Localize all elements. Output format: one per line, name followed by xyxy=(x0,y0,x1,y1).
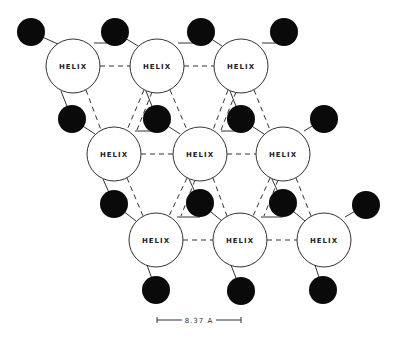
dashed-bond xyxy=(253,178,270,216)
helix-label: HELIX xyxy=(59,63,87,71)
helix-label: HELIX xyxy=(100,151,128,159)
ion-sphere xyxy=(269,189,297,217)
ion-sphere xyxy=(309,276,337,304)
helix-node: HELIX xyxy=(214,39,268,93)
helix-node: HELIX xyxy=(213,213,267,267)
helix-node: HELIX xyxy=(173,127,227,181)
ion-sphere xyxy=(186,189,214,217)
ion-sphere xyxy=(143,105,171,133)
helix-label: HELIX xyxy=(142,237,170,245)
ion-sphere xyxy=(100,190,128,218)
helix-label: HELIX xyxy=(227,63,255,71)
helix-cylinders: HELIXHELIXHELIXHELIXHELIXHELIXHELIXHELIX… xyxy=(46,39,351,267)
helix-node: HELIX xyxy=(129,213,183,267)
helix-packing-diagram: HELIXHELIXHELIXHELIXHELIXHELIXHELIXHELIX… xyxy=(0,0,396,337)
helix-node: HELIX xyxy=(46,39,100,93)
ion-sphere xyxy=(101,18,129,46)
helix-node: HELIX xyxy=(256,127,310,181)
ion-sphere xyxy=(17,18,45,46)
ion-sphere xyxy=(227,277,255,305)
dashed-bond xyxy=(169,178,187,216)
helix-label: HELIX xyxy=(226,237,254,245)
ion-sphere xyxy=(352,191,380,219)
ion-sphere xyxy=(227,105,255,133)
ion-sphere xyxy=(270,18,298,46)
dashed-bond xyxy=(127,90,144,130)
dashed-bond xyxy=(86,90,101,130)
ion-sphere xyxy=(310,105,338,133)
helix-label: HELIX xyxy=(186,151,214,159)
helix-node: HELIX xyxy=(87,127,141,181)
ion-sphere xyxy=(58,105,86,133)
helix-node: HELIX xyxy=(297,213,351,267)
ion-sphere xyxy=(142,276,170,304)
ion-sphere xyxy=(187,18,215,46)
dashed-bond xyxy=(254,90,270,130)
scale-bar: 8.37 A xyxy=(157,317,241,325)
scale-bar-label: 8.37 A xyxy=(185,317,214,325)
dashed-bond xyxy=(170,90,187,130)
helix-label: HELIX xyxy=(143,63,171,71)
helix-node: HELIX xyxy=(130,39,184,93)
dashed-bond xyxy=(296,178,311,216)
helix-label: HELIX xyxy=(269,151,297,159)
dashed-bond xyxy=(213,90,228,130)
helix-label: HELIX xyxy=(310,237,338,245)
dashed-bond xyxy=(213,178,227,216)
dashed-bond xyxy=(127,178,143,216)
